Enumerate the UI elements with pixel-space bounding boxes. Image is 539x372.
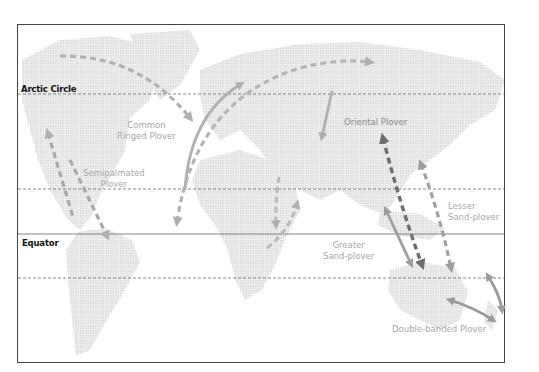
label-double-banded-plover: Double-banded Plover <box>392 324 486 335</box>
label-line: Double-banded Plover <box>392 324 486 335</box>
label-line: Sand-plover <box>448 212 499 223</box>
label-line: Greater <box>323 240 374 251</box>
label-common-ringed-plover: Common Ringed Plover <box>117 120 176 142</box>
label-semipalmated-plover: Semipalmated Plover <box>83 168 145 190</box>
label-oriental-plover: Oriental Plover <box>344 117 407 128</box>
south-america <box>66 228 140 356</box>
label-line: Oriental Plover <box>344 117 407 128</box>
label-line: Common <box>117 120 176 131</box>
label-line: Plover <box>83 179 145 190</box>
label-line: Lesser <box>448 201 499 212</box>
label-greater-sand-plover: Greater Sand-plover <box>323 240 374 262</box>
label-line: Ringed Plover <box>117 131 176 142</box>
label-line: Sand-plover <box>323 251 374 262</box>
australia <box>388 262 468 330</box>
label-line: Semipalmated <box>83 168 145 179</box>
equator-label: Equator <box>22 238 58 248</box>
label-lesser-sand-plover: Lesser Sand-plover <box>448 201 499 223</box>
world-map <box>0 0 539 372</box>
arctic-circle-label: Arctic Circle <box>21 84 76 94</box>
